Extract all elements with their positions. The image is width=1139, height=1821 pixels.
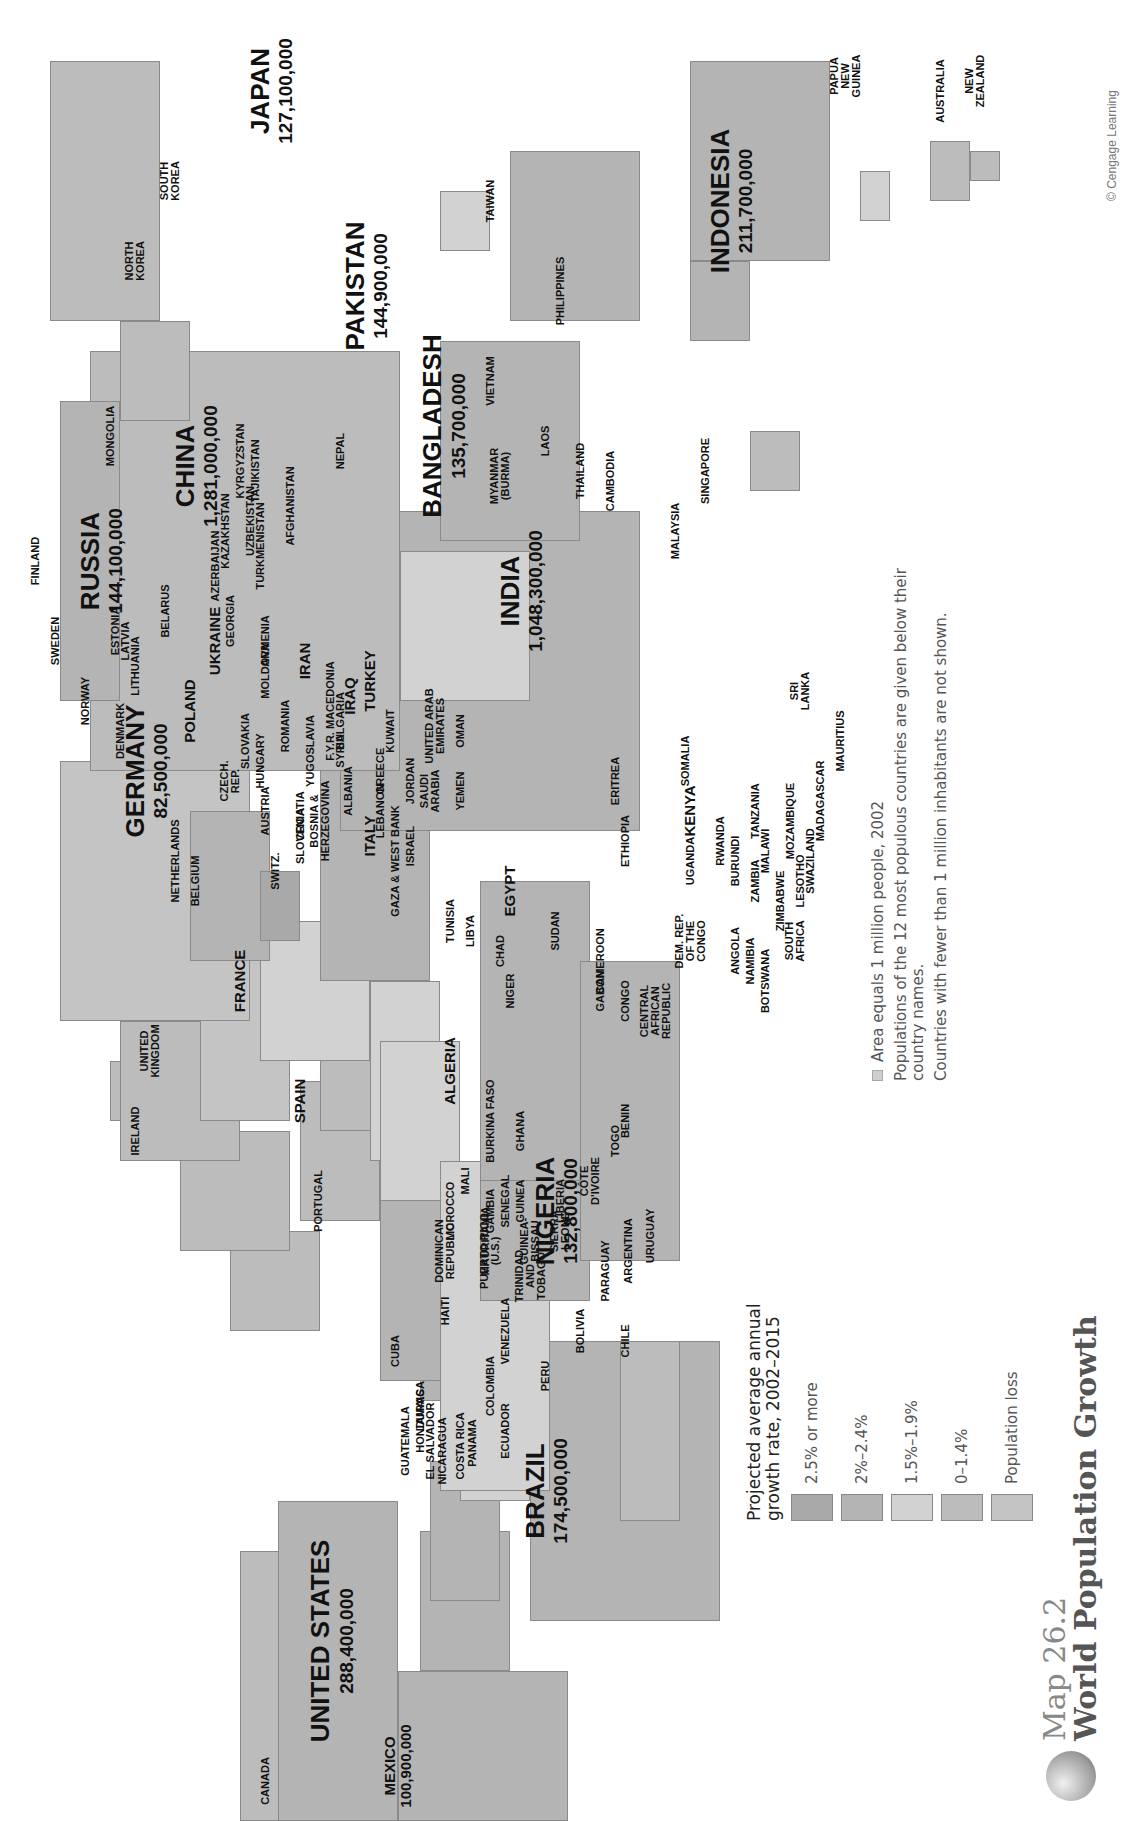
pop-bangladesh: 135,700,000 (449, 373, 468, 479)
globe-icon (1046, 1751, 1096, 1801)
label-armenia: ARMENIA (260, 615, 271, 666)
label-sri-lanka: SRI LANKA (789, 672, 811, 711)
label-myanmar: MYANMAR (BURMA) (489, 448, 511, 504)
label-mozambique: MOZAMBIQUE (785, 783, 796, 859)
label-romania: ROMANIA (280, 700, 291, 753)
label-india: INDIA (498, 556, 522, 627)
map-title: World Population Growth (1070, 1315, 1102, 1741)
label-chad: CHAD (495, 935, 506, 967)
label-gabon: GABON (595, 971, 606, 1012)
legend-title-line2: growth rate, 2002–2015 (764, 961, 783, 1521)
label-austria: AUSTRIA (260, 787, 271, 836)
label-mauritius: MAURITIUS (835, 710, 846, 771)
label-rwanda: RWANDA (715, 816, 726, 865)
region-east-africa (480, 881, 590, 1181)
label-egypt: EGYPT (503, 866, 517, 917)
label-singapore: SINGAPORE (700, 438, 711, 504)
label-russia: RUSSIA (78, 512, 102, 610)
label-kenya: KENYA (683, 785, 697, 836)
label-guinea-bissau: GUINEA- BISSAU (519, 1218, 541, 1264)
label-taiwan: TAIWAN (485, 180, 496, 223)
label-afghanistan: AFGHANISTAN (285, 466, 296, 545)
label-ethiopia: ETHIOPIA (620, 815, 631, 867)
label-yugoslavia: YUGOSLAVIA (305, 715, 316, 787)
label-papua: PAPUA NEW GUINEA (829, 55, 862, 98)
label-netherlands: NETHERLANDS (170, 819, 181, 902)
label-gambia: GAMBIA (485, 1189, 496, 1234)
region-australia (930, 141, 970, 201)
label-eritrea: ERITREA (610, 757, 621, 805)
copyright: © Cengage Learning (1105, 90, 1119, 201)
region-japan (50, 61, 160, 321)
label-indonesia: INDONESIA (708, 129, 732, 273)
label-bangladesh: BANGLADESH (420, 334, 444, 517)
region-korea (120, 321, 190, 421)
legend-item-5: Population loss (991, 961, 1033, 1521)
label-haiti: HAITI (440, 1297, 451, 1326)
legend-label-1: 2.5% or more (803, 1382, 821, 1484)
label-drc: DEM. REP. OF THE CONGO (674, 914, 707, 969)
label-mongolia: MONGOLIA (105, 406, 116, 467)
label-ghana: GHANA (515, 1111, 526, 1151)
region-mexico (398, 1671, 568, 1821)
pop-russia: 144,100,000 (106, 508, 125, 614)
label-peru: PERU (540, 1361, 551, 1392)
label-venezuela: VENEZUELA (500, 1298, 511, 1365)
pop-mexico: 100,900,000 (399, 1724, 413, 1807)
label-argentina: ARGENTINA (623, 1218, 634, 1283)
label-north-korea: NORTH KOREA (124, 241, 146, 281)
label-france: FRANCE (233, 950, 247, 1013)
label-mexico: MEXICO (383, 1736, 397, 1795)
label-spain: SPAIN (293, 1079, 307, 1124)
label-cote: CÔTE D'IVOIRE (579, 1157, 601, 1205)
label-canada-b: CANADA (260, 1757, 271, 1805)
label-albania: ALBANIA (343, 766, 354, 816)
label-madagascar: MADAGASCAR (815, 761, 826, 842)
label-panama: PANAMA (467, 1419, 478, 1466)
label-new-zealand: NEW ZEALAND (964, 55, 986, 108)
label-turkey: TURKEY (363, 650, 377, 712)
label-bosnia: BOSNIA & HERZEGOVINA (309, 781, 331, 862)
label-united-states: UNITED STATES (308, 1540, 332, 1743)
label-car: CENTRAL AFRICAN REPUBLIC (639, 983, 672, 1039)
label-guatemala: GUATEMALA (400, 1406, 411, 1475)
label-uae: UNITED ARAB EMIRATES (424, 688, 446, 763)
label-ukraine: UKRAINE (208, 607, 222, 675)
label-morocco: MOROCCO (445, 1182, 456, 1241)
label-finland: FINLAND (30, 537, 41, 585)
pop-pakistan: 144,900,000 (371, 233, 390, 339)
label-south-korea: SOUTH KOREA (159, 161, 181, 201)
label-south-africa: SOUTH AFRICA (784, 920, 806, 962)
label-somalia: SOMALIA (680, 736, 691, 787)
label-mali: MALI (460, 1168, 471, 1195)
label-gaza: GAZA & WEST BANK (390, 805, 401, 916)
region-taiwan (440, 191, 490, 251)
note-area-text: Area equals 1 million people, 2002 (869, 801, 887, 1062)
note-populations: Populations of the 12 most populous coun… (893, 521, 927, 1081)
label-china: CHINA (173, 425, 197, 507)
label-iraq: IRAQ (343, 677, 357, 715)
label-tanzania: TANZANIA (750, 783, 761, 838)
legend-item-1: 2.5% or more (791, 961, 833, 1521)
label-lebanon: LEBANON (375, 784, 386, 838)
label-belgium: BELGIUM (190, 856, 201, 907)
legend-label-4: 0–1.4% (953, 1429, 971, 1484)
label-uk: UNITED KINGDOM (139, 1024, 161, 1077)
label-vietnam: VIETNAM (485, 356, 496, 406)
pop-indonesia: 211,700,000 (736, 149, 755, 254)
map-notes: Area equals 1 million people, 2002 Popul… (870, 521, 956, 1081)
pop-japan: 127,100,000 (276, 38, 295, 144)
label-pakistan: PAKISTAN (343, 221, 367, 350)
label-bolivia: BOLIVIA (575, 1309, 586, 1354)
label-japan: JAPAN (248, 48, 272, 134)
label-sweden: SWEDEN (50, 617, 61, 665)
label-nicaragua: NICARAGUA (437, 1417, 448, 1484)
label-laos: LAOS (540, 426, 551, 457)
label-burundi: BURUNDI (730, 836, 741, 887)
label-australia: AUSTRALIA (935, 59, 946, 123)
label-cambodia: CAMBODIA (605, 451, 616, 512)
label-denmark: DENMARK (115, 703, 126, 759)
label-brazil: BRAZIL (523, 1443, 547, 1538)
label-lithuania: LITHUANIA (130, 636, 141, 695)
label-tajikistan: TAJIKISTAN (250, 439, 261, 502)
